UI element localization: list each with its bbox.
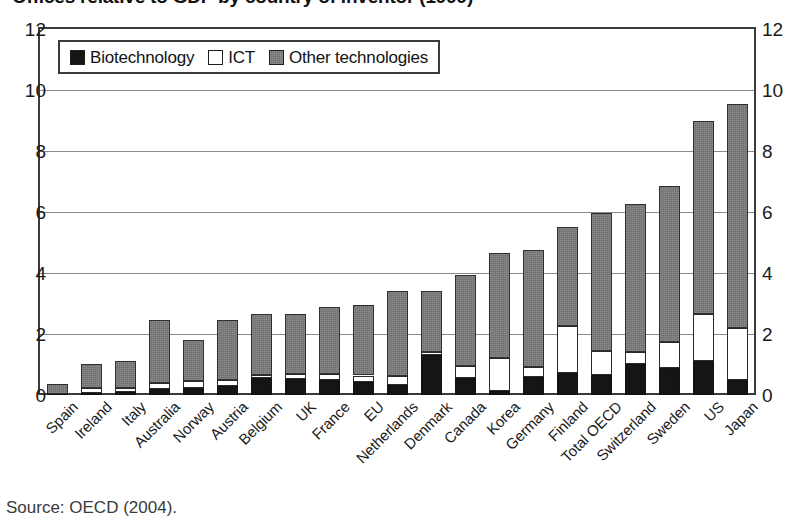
gray-hatched-square-icon <box>269 50 284 65</box>
bar-segment-other <box>251 314 272 375</box>
bar-segment-other <box>455 275 476 367</box>
bar-norway[interactable] <box>183 340 204 395</box>
y-tick-label: 6 <box>762 203 794 222</box>
legend-item-label: ICT <box>228 49 255 66</box>
bar-segment-ict <box>81 388 102 392</box>
bar-segment-other <box>421 291 442 352</box>
bar-segment-other <box>285 314 306 374</box>
bar-italy[interactable] <box>115 361 136 395</box>
bar-segment-ict <box>523 367 544 378</box>
y-tick-label: 10 <box>6 81 46 100</box>
white-open-square-icon <box>208 50 223 65</box>
bar-segment-ict <box>251 375 272 379</box>
bar-segment-ict <box>693 314 714 361</box>
bar-canada[interactable] <box>455 275 476 395</box>
bar-segment-ict <box>285 374 306 379</box>
bar-segment-other <box>557 227 578 326</box>
bar-segment-ict <box>591 351 612 375</box>
bar-segment-biotech <box>557 373 578 395</box>
bar-segment-ict <box>625 352 646 364</box>
black-filled-square-icon <box>70 50 85 65</box>
legend-item-biotechnology[interactable]: Biotechnology <box>70 49 194 66</box>
bar-segment-ict <box>557 326 578 373</box>
legend-item-other-technologies[interactable]: Other technologies <box>269 49 428 66</box>
bar-segment-biotech <box>421 355 442 395</box>
bar-segment-ict <box>421 352 442 356</box>
bar-segment-ict <box>353 376 374 383</box>
bar-segment-ict <box>115 388 136 392</box>
bar-netherlands[interactable] <box>387 291 408 395</box>
bar-segment-biotech <box>81 393 102 395</box>
bar-segment-biotech <box>625 364 646 395</box>
legend-item-ict[interactable]: ICT <box>208 49 255 66</box>
bar-segment-ict <box>387 376 408 385</box>
bar-segment-biotech <box>251 378 272 395</box>
bar-segment-other <box>183 340 204 381</box>
bar-total-oecd[interactable] <box>591 213 612 395</box>
bar-segment-ict <box>319 374 340 379</box>
bar-segment-biotech <box>353 382 374 395</box>
bar-segment-other <box>727 104 748 328</box>
bar-australia[interactable] <box>149 320 170 395</box>
bar-germany[interactable] <box>523 250 544 395</box>
bars-layer <box>40 29 754 395</box>
bar-japan[interactable] <box>727 104 748 395</box>
legend-item-label: Other technologies <box>289 49 428 66</box>
bar-segment-other <box>319 307 340 375</box>
bar-segment-biotech <box>659 368 680 395</box>
bar-segment-ict <box>455 366 476 378</box>
source-note: Source: OECD (2004). <box>6 498 177 518</box>
bar-segment-biotech <box>115 392 136 395</box>
bar-segment-ict <box>149 383 170 388</box>
legend-item-label: Biotechnology <box>90 49 194 66</box>
y-tick-label: 6 <box>6 203 46 222</box>
bar-segment-biotech <box>727 380 748 395</box>
bar-segment-other <box>591 213 612 352</box>
bar-segment-other <box>489 253 510 358</box>
x-axis-labels: SpainIrelandItalyAustraliaNorwayAustriaB… <box>40 398 754 490</box>
bar-segment-other <box>625 204 646 351</box>
bar-france[interactable] <box>319 307 340 395</box>
y-tick-label: 12 <box>762 20 794 39</box>
bar-belgium[interactable] <box>251 314 272 395</box>
bar-segment-biotech <box>387 385 408 395</box>
bar-korea[interactable] <box>489 253 510 395</box>
y-tick-label: 4 <box>762 264 794 283</box>
bar-us[interactable] <box>693 121 714 396</box>
bar-segment-other <box>149 320 170 383</box>
bar-spain[interactable] <box>47 384 68 395</box>
bar-segment-other <box>693 121 714 315</box>
y-tick-label: 8 <box>6 142 46 161</box>
bar-segment-other <box>217 320 238 379</box>
bar-segment-other <box>81 364 102 388</box>
bar-segment-ict <box>217 380 238 387</box>
y-tick-label: 2 <box>6 325 46 344</box>
bar-segment-other <box>47 384 68 394</box>
y-tick-label: 8 <box>762 142 794 161</box>
bar-segment-other <box>387 291 408 376</box>
bar-ireland[interactable] <box>81 364 102 395</box>
bar-segment-other <box>115 361 136 388</box>
bar-austria[interactable] <box>217 320 238 395</box>
chart-legend: BiotechnologyICTOther technologies <box>58 40 440 74</box>
bar-finland[interactable] <box>557 227 578 395</box>
bar-segment-other <box>659 186 680 342</box>
y-tick-label: 4 <box>6 264 46 283</box>
y-tick-label: 0 <box>762 386 794 405</box>
bar-segment-ict <box>183 381 204 388</box>
bar-segment-biotech <box>523 377 544 395</box>
bar-denmark[interactable] <box>421 291 442 395</box>
chart-title: Offices relative to GDP by country of in… <box>12 0 782 10</box>
bar-segment-biotech <box>149 389 170 395</box>
y-tick-label: 12 <box>6 20 46 39</box>
bar-switzerland[interactable] <box>625 204 646 395</box>
bar-eu[interactable] <box>353 305 374 395</box>
bar-segment-other <box>523 250 544 367</box>
bar-uk[interactable] <box>285 314 306 395</box>
bar-segment-ict <box>659 342 680 368</box>
bar-segment-biotech <box>285 379 306 395</box>
bar-segment-biotech <box>591 375 612 395</box>
bar-sweden[interactable] <box>659 186 680 395</box>
bar-segment-biotech <box>693 361 714 395</box>
